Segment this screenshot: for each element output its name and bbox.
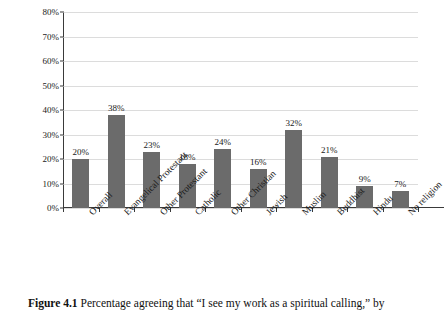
chart-plot-area: 0%10%20%30%40%50%60%70%80% 20%38%23%18%2… — [33, 6, 421, 209]
bar-value-label: 9% — [359, 174, 371, 184]
x-axis-category-label: Buddhist — [335, 210, 342, 217]
category-labels-group: OverallEvangelical ProtestantOther Prote… — [63, 208, 418, 278]
y-axis-label: 60% — [43, 56, 64, 66]
x-axis-category-label: No religion — [406, 210, 413, 217]
x-axis-category-label: Hindu — [371, 210, 378, 217]
x-axis-category-label: Other Protestant — [158, 210, 165, 217]
x-axis-category-label: Jewish — [264, 210, 271, 217]
bar-slot: 24% — [205, 12, 241, 208]
bar-value-label: 16% — [250, 157, 267, 167]
bar-slot: 21% — [312, 12, 348, 208]
y-axis-label: 20% — [43, 154, 64, 164]
bar-slot: 7% — [383, 12, 419, 208]
bar-value-label: 32% — [286, 118, 303, 128]
chart-axes: 0%10%20%30%40%50%60%70%80% 20%38%23%18%2… — [63, 12, 418, 208]
bar-value-label: 7% — [394, 179, 406, 189]
figure-caption: Figure 4.1 Percentage agreeing that “I s… — [28, 296, 420, 311]
figure-caption-text: Percentage agreeing that “I see my work … — [81, 297, 385, 309]
y-axis-label: 0% — [47, 203, 63, 213]
x-axis-category-label: Muslim — [300, 210, 307, 217]
x-axis-category-label: Evangelical Protestant — [122, 210, 129, 217]
x-axis-category-label: Catholic — [193, 210, 200, 217]
figure-caption-label: Figure 4.1 — [28, 297, 78, 309]
bar-slot: 9% — [347, 12, 383, 208]
y-axis-label: 40% — [43, 105, 64, 115]
bar-value-label: 21% — [321, 145, 338, 155]
y-axis-label: 50% — [43, 81, 64, 91]
bar-slot: 32% — [276, 12, 312, 208]
x-axis-category-label: Overall — [87, 210, 94, 217]
y-axis-label: 80% — [43, 7, 64, 17]
bar-slot: 20% — [63, 12, 99, 208]
y-axis-label: 30% — [43, 130, 64, 140]
bar-value-label: 20% — [73, 147, 90, 157]
bar-value-label: 24% — [215, 137, 232, 147]
y-axis-label: 70% — [43, 32, 64, 42]
bar-value-label: 23% — [144, 140, 161, 150]
y-axis-label: 10% — [43, 179, 64, 189]
bar-slot: 38% — [99, 12, 135, 208]
bar-value-label: 38% — [108, 103, 125, 113]
x-axis-category-label: Other Christian — [229, 210, 236, 217]
bar[interactable]: 20% — [72, 159, 89, 208]
bars-group: 20%38%23%18%24%16%32%21%9%7% — [63, 12, 418, 208]
